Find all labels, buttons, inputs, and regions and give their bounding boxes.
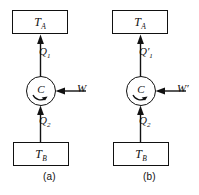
- panel-caption-b: (b): [100, 171, 199, 182]
- cold-reservoir-label-a: TB: [35, 148, 46, 160]
- hot-reservoir-box-a: TA: [12, 10, 68, 34]
- engine-label-b: C: [137, 84, 144, 95]
- panel-a: TA Q1 C W Q2 TB (a): [0, 0, 99, 195]
- work-input-label-a: W: [77, 83, 86, 94]
- work-input-label-b: W′: [177, 83, 189, 94]
- engine-circle-a: C: [26, 76, 56, 106]
- panel-b: TA Q′1 C W′ Q2 TB (b): [100, 0, 199, 195]
- hot-reservoir-label-b: TA: [134, 16, 145, 28]
- figure-root: TA Q1 C W Q2 TB (a): [0, 0, 199, 195]
- heat-in-label-a: Q2: [39, 115, 50, 126]
- heat-out-label-b: Q′1: [139, 46, 153, 57]
- heat-in-label-b: Q2: [139, 115, 150, 126]
- engine-label-a: C: [37, 84, 44, 95]
- hot-reservoir-box-b: TA: [112, 10, 168, 34]
- cold-reservoir-box-b: TB: [113, 142, 169, 166]
- engine-circle-b: C: [126, 76, 156, 106]
- hot-reservoir-label-a: TA: [34, 16, 45, 28]
- heat-out-label-a: Q1: [39, 46, 50, 57]
- cold-reservoir-box-a: TB: [13, 142, 69, 166]
- cold-reservoir-label-b: TB: [135, 148, 146, 160]
- panel-caption-a: (a): [0, 171, 99, 182]
